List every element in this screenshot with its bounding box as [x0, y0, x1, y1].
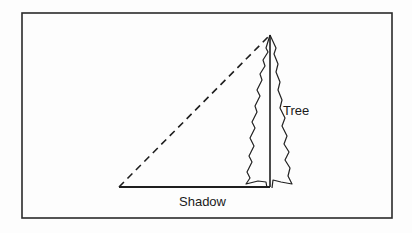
tree-label: Tree	[283, 104, 309, 117]
diagram-canvas: Tree Shadow	[0, 0, 412, 233]
shadow-label: Shadow	[179, 195, 226, 208]
sun-ray-dashed-line	[119, 35, 270, 187]
